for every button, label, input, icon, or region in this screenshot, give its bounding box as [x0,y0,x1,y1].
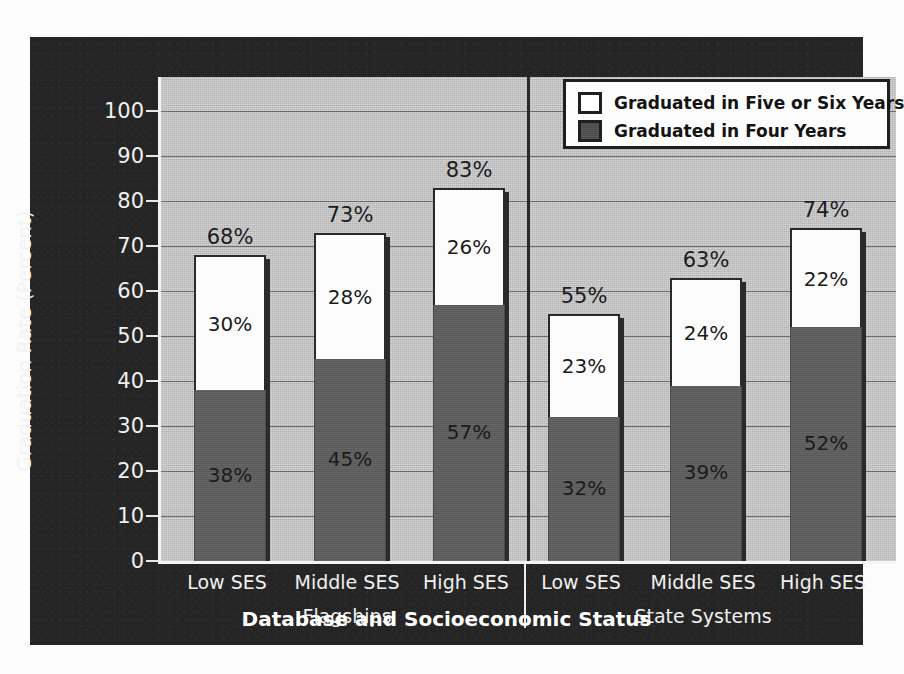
bar-total-label: 55% [536,284,632,308]
group-divider [527,77,530,561]
bar-segment-five-or-six-years: 28% [314,233,386,359]
bar-value-label: 23% [550,354,618,378]
bar-stack: 32%23%55% [548,314,620,562]
bar-value-label: 30% [196,312,264,336]
bar-total-label: 74% [778,198,874,222]
bar-stack: 57%26%83% [433,188,505,562]
x-axis-category-label: Low SES [157,571,297,593]
bar-value-label: 57% [434,420,504,444]
y-axis-tick-label: 80 [84,189,144,213]
bar-segment-five-or-six-years: 30% [194,255,266,390]
y-axis-tick [146,290,158,292]
bar-value-label: 28% [316,285,384,309]
legend-label: Graduated in Five or Six Years [614,93,904,113]
bar-stack: 39%24%63% [670,278,742,562]
y-axis-tick-label: 30 [84,414,144,438]
x-axis-category-label: High SES [753,571,893,593]
y-axis-tick [146,335,158,337]
y-axis-tick [146,560,158,562]
y-axis-title: Graduation Rate (Percent) [12,210,36,471]
bar-value-label: 38% [195,463,265,487]
bar-segment-four-years: 45% [314,359,386,562]
legend-swatch-white-icon [578,92,602,114]
bar-segment-five-or-six-years: 23% [548,314,620,418]
y-axis-tick-label: 100 [84,99,144,123]
bar-total-label: 63% [658,248,754,272]
bar-value-label: 22% [792,267,860,291]
bar-segment-four-years: 52% [790,327,862,561]
x-axis-category-label: Middle SES [633,571,773,593]
bar-shadow [742,282,746,562]
y-axis-tick-label: 70 [84,234,144,258]
y-axis-tick-label: 10 [84,504,144,528]
y-axis-tick [146,200,158,202]
bar-stack: 52%22%74% [790,228,862,561]
y-axis-tick-label: 20 [84,459,144,483]
bar-stack: 38%30%68% [194,255,266,561]
bar-value-label: 45% [315,447,385,471]
x-axis-category-label: Low SES [511,571,651,593]
bar-total-label: 73% [302,203,398,227]
y-axis-tick [146,515,158,517]
bar-segment-five-or-six-years: 24% [670,278,742,386]
y-axis-tick [146,110,158,112]
bar-segment-four-years: 39% [670,386,742,562]
y-axis-tick-label: 60 [84,279,144,303]
x-axis-title: Database and Socioeconomic Status [30,607,863,631]
legend-swatch-dark-icon [578,120,602,142]
y-axis-tick [146,470,158,472]
legend-item-four-years: Graduated in Four Years [578,117,887,145]
bar-total-label: 83% [421,158,517,182]
legend-item-five-or-six-years: Graduated in Five or Six Years [578,89,887,117]
bar-segment-four-years: 57% [433,305,505,562]
y-axis-tick [146,245,158,247]
bar-shadow [505,192,509,562]
bar-segment-four-years: 38% [194,390,266,561]
bar-shadow [862,232,866,561]
legend-label: Graduated in Four Years [614,121,846,141]
bar-shadow [620,318,624,562]
bar-value-label: 39% [671,460,741,484]
bar-value-label: 52% [791,431,861,455]
bar-segment-four-years: 32% [548,417,620,561]
bar-shadow [386,237,390,562]
bar-shadow [266,259,270,561]
chart-legend: Graduated in Five or Six Years Graduated… [563,79,890,149]
y-axis-tick [146,425,158,427]
bar-value-label: 32% [549,476,619,500]
bar-segment-five-or-six-years: 26% [433,188,505,305]
chart-panel: 38%30%68%45%28%73%57%26%83%32%23%55%39%2… [30,37,863,645]
y-axis-tick [146,380,158,382]
y-axis-tick [146,155,158,157]
y-axis-tick-label: 90 [84,144,144,168]
bar-value-label: 24% [672,321,740,345]
y-axis-tick-label: 0 [84,549,144,573]
y-axis-tick-label: 40 [84,369,144,393]
x-axis-line [158,561,896,564]
plot-area: 38%30%68%45%28%73%57%26%83%32%23%55%39%2… [158,77,896,561]
bar-value-label: 26% [435,235,503,259]
bar-stack: 45%28%73% [314,233,386,562]
bar-total-label: 68% [182,225,278,249]
bar-segment-five-or-six-years: 22% [790,228,862,327]
y-axis-tick-label: 50 [84,324,144,348]
